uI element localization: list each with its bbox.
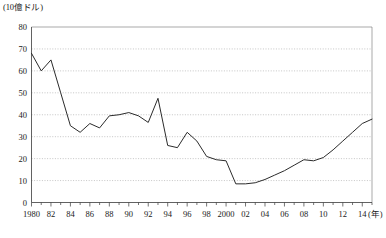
y-tick-label: 20 <box>19 154 28 164</box>
x-tick-label: 94 <box>163 209 172 219</box>
x-tick-label: 1980 <box>23 209 40 219</box>
y-tick-label: 50 <box>19 88 28 98</box>
x-axis-unit-label: (年) <box>368 209 383 219</box>
x-tick-label: 88 <box>105 209 114 219</box>
x-axis-ticks <box>32 203 373 207</box>
x-tick-label: 04 <box>261 209 270 219</box>
data-series-line <box>32 53 373 184</box>
y-tick-label: 70 <box>19 44 28 54</box>
x-tick-label: 2000 <box>218 209 235 219</box>
y-tick-label: 30 <box>19 132 28 142</box>
x-tick-label: 84 <box>66 209 75 219</box>
y-tick-label: 80 <box>19 22 28 32</box>
y-axis-tick-labels: 01020304050607080 <box>19 22 28 208</box>
x-tick-label: 10 <box>319 209 328 219</box>
x-tick-label: 12 <box>339 209 348 219</box>
x-tick-label: 06 <box>280 209 289 219</box>
y-tick-label: 60 <box>19 66 28 76</box>
y-tick-label: 10 <box>19 176 28 186</box>
x-tick-label: 90 <box>125 209 134 219</box>
line-chart-plot: 01020304050607080 1980828486889092949698… <box>0 0 386 238</box>
x-tick-label: 08 <box>300 209 309 219</box>
x-tick-label: 98 <box>202 209 211 219</box>
x-tick-label: 14 <box>358 209 367 219</box>
x-tick-label: 02 <box>241 209 250 219</box>
x-tick-label: 92 <box>144 209 153 219</box>
x-tick-label: 82 <box>47 209 56 219</box>
x-tick-label: 86 <box>86 209 95 219</box>
chart-container: (10億ドル) 01020304050607080 19808284868890… <box>0 0 386 238</box>
y-tick-label: 40 <box>19 110 28 120</box>
gridlines <box>32 49 373 181</box>
x-axis-tick-labels: 1980828486889092949698200002040608101214 <box>23 209 367 219</box>
x-tick-label: 96 <box>183 209 192 219</box>
y-tick-label: 0 <box>23 198 27 208</box>
